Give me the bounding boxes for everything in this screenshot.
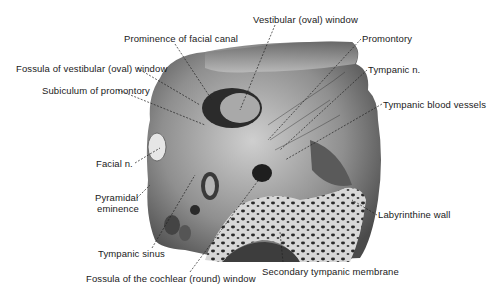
specimen [147, 42, 381, 262]
label-tympanic-n: Tympanic n. [368, 64, 420, 75]
label-fossula-cochlear-window: Fossula of the cochlear (round) window [86, 273, 256, 284]
label-subiculum-promontory: Subiculum of promontory [42, 85, 150, 96]
label-tympanic-blood-vessels: Tympanic blood vessels [383, 99, 486, 110]
label-fossula-vestibular-window: Fossula of vestibular (oval) window [16, 63, 167, 74]
label-promontory: Promontory [362, 33, 412, 44]
label-tympanic-sinus: Tympanic sinus [98, 248, 165, 259]
label-pyramidal-eminence-line1: Pyramidal [95, 192, 138, 203]
label-prominence-facial-canal: Prominence of facial canal [124, 33, 238, 44]
label-facial-n: Facial n. [96, 158, 133, 169]
label-pyramidal-eminence-line2: eminence [97, 203, 139, 214]
anatomical-illustration [0, 0, 496, 301]
label-labyrinthine-wall: Labyrinthine wall [378, 209, 450, 220]
label-secondary-tympanic-membrane: Secondary tympanic membrane [262, 266, 399, 277]
label-vestibular-window: Vestibular (oval) window [253, 14, 358, 25]
